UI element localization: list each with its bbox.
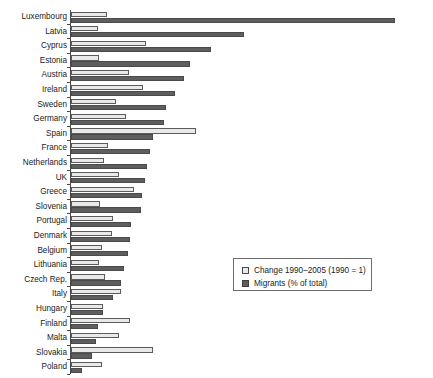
category-label: Slovenia	[0, 200, 67, 215]
bar-change-1990-2005	[71, 85, 143, 90]
bar-row: Netherlands	[0, 156, 433, 171]
category-label: France	[0, 141, 67, 156]
bar-migrants-percent	[71, 105, 166, 110]
bar-row: Spain	[0, 127, 433, 142]
category-label: Poland	[0, 360, 67, 375]
bar-change-1990-2005	[71, 260, 99, 265]
bar-change-1990-2005	[71, 12, 107, 17]
bar-migrants-percent	[71, 178, 145, 183]
bar-row: Ireland	[0, 83, 433, 98]
bar-change-1990-2005	[71, 304, 103, 309]
bar-change-1990-2005	[71, 128, 196, 133]
bar-change-1990-2005	[71, 187, 134, 192]
category-label: Belgium	[0, 244, 67, 259]
bar-row: Slovenia	[0, 200, 433, 215]
bar-change-1990-2005	[71, 143, 108, 148]
category-label: Cyprus	[0, 39, 67, 54]
bar-migrants-percent	[71, 280, 121, 285]
bar-change-1990-2005	[71, 114, 126, 119]
category-label: Finland	[0, 317, 67, 332]
category-label: Hungary	[0, 302, 67, 317]
bar-change-1990-2005	[71, 41, 146, 46]
legend-entry-migrants: Migrants (% of total)	[242, 277, 327, 289]
bar-migrants-percent	[71, 193, 142, 198]
bar-row: Germany	[0, 112, 433, 127]
bar-migrants-percent	[71, 134, 153, 139]
bar-migrants-percent	[71, 76, 184, 81]
bar-migrants-percent	[71, 353, 92, 358]
bar-migrants-percent	[71, 61, 190, 66]
bar-row: Malta	[0, 331, 433, 346]
category-label: Sweden	[0, 98, 67, 113]
bar-migrants-percent	[71, 91, 175, 96]
bar-row: Sweden	[0, 98, 433, 113]
bar-change-1990-2005	[71, 55, 99, 60]
legend-swatch-change-icon	[242, 267, 249, 274]
bar-chart: LuxembourgLatviaCyprusEstoniaAustriaIrel…	[0, 0, 433, 378]
bar-change-1990-2005	[71, 70, 129, 75]
bar-row: Belgium	[0, 244, 433, 259]
bar-change-1990-2005	[71, 99, 116, 104]
bar-migrants-percent	[71, 32, 244, 37]
category-label: Austria	[0, 68, 67, 83]
bar-row: Greece	[0, 185, 433, 200]
bar-change-1990-2005	[71, 158, 104, 163]
category-label: Malta	[0, 331, 67, 346]
bar-row: UK	[0, 171, 433, 186]
bar-migrants-percent	[71, 120, 164, 125]
bar-row: Estonia	[0, 54, 433, 69]
category-label: Denmark	[0, 229, 67, 244]
bar-migrants-percent	[71, 266, 124, 271]
bar-change-1990-2005	[71, 362, 102, 367]
bar-row: Portugal	[0, 214, 433, 229]
category-label: Luxembourg	[0, 10, 67, 25]
bar-change-1990-2005	[71, 26, 98, 31]
category-label: UK	[0, 171, 67, 186]
category-label: Ireland	[0, 83, 67, 98]
category-label: Slovakia	[0, 346, 67, 361]
bar-row: France	[0, 141, 433, 156]
bar-migrants-percent	[71, 207, 141, 212]
bar-row: Finland	[0, 317, 433, 332]
bar-change-1990-2005	[71, 231, 112, 236]
bar-row: Austria	[0, 68, 433, 83]
bar-row: Slovakia	[0, 346, 433, 361]
bar-row: Latvia	[0, 25, 433, 40]
bar-change-1990-2005	[71, 274, 105, 279]
bar-change-1990-2005	[71, 201, 100, 206]
bar-migrants-percent	[71, 149, 150, 154]
chart-legend: Change 1990–2005 (1990 = 1) Migrants (% …	[233, 258, 372, 291]
axis-tick	[67, 374, 70, 375]
bar-migrants-percent	[71, 339, 96, 344]
bar-migrants-percent	[71, 18, 395, 23]
bar-migrants-percent	[71, 237, 130, 242]
bar-row: Cyprus	[0, 39, 433, 54]
bar-change-1990-2005	[71, 289, 121, 294]
bar-change-1990-2005	[71, 172, 119, 177]
bar-migrants-percent	[71, 324, 98, 329]
category-label: Netherlands	[0, 156, 67, 171]
category-label: Germany	[0, 112, 67, 127]
category-label: Greece	[0, 185, 67, 200]
plot-area: LuxembourgLatviaCyprusEstoniaAustriaIrel…	[0, 0, 433, 378]
category-label: Estonia	[0, 54, 67, 69]
category-label: Italy	[0, 287, 67, 302]
legend-label-migrants: Migrants (% of total)	[254, 279, 327, 288]
bar-change-1990-2005	[71, 333, 119, 338]
bar-migrants-percent	[71, 47, 211, 52]
bar-migrants-percent	[71, 310, 103, 315]
bar-change-1990-2005	[71, 245, 102, 250]
legend-entry-change: Change 1990–2005 (1990 = 1)	[242, 264, 366, 276]
bar-row: Luxembourg	[0, 10, 433, 25]
bar-change-1990-2005	[71, 347, 153, 352]
bar-change-1990-2005	[71, 318, 130, 323]
bar-change-1990-2005	[71, 216, 113, 221]
bar-row: Poland	[0, 360, 433, 375]
bar-row: Denmark	[0, 229, 433, 244]
category-label: Czech Rep.	[0, 273, 67, 288]
bar-migrants-percent	[71, 295, 113, 300]
category-label: Portugal	[0, 214, 67, 229]
category-label: Lithuania	[0, 258, 67, 273]
bar-migrants-percent	[71, 368, 82, 373]
bar-migrants-percent	[71, 251, 128, 256]
